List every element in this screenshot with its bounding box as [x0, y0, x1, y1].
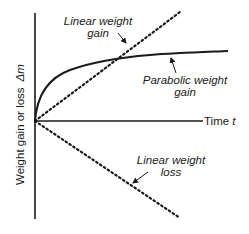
linear-gain-pointer-arrow	[118, 33, 126, 43]
oxidation-kinetics-diagram: Weight gain or lossΔm Timet Linear weigh…	[0, 0, 249, 234]
svg-text:gain: gain	[174, 86, 196, 98]
x-axis-label: Timet	[204, 115, 236, 127]
linear-loss-line	[35, 121, 180, 218]
svg-text:loss: loss	[161, 166, 182, 178]
svg-text:gain: gain	[87, 27, 109, 39]
linear-loss-pointer-arrow	[133, 172, 148, 183]
parabolic-gain-curve	[35, 51, 228, 121]
linear-gain-label: Linear weight gain	[64, 15, 133, 43]
svg-text:Parabolic weight: Parabolic weight	[143, 74, 228, 86]
svg-text:Linear weight: Linear weight	[64, 15, 133, 27]
svg-text:Linear weight: Linear weight	[137, 154, 206, 166]
linear-loss-label: Linear weight loss	[133, 154, 206, 183]
y-axis-label: Weight gain or lossΔm	[14, 64, 26, 185]
parabolic-gain-label: Parabolic weight gain	[143, 58, 228, 98]
parabolic-gain-pointer-arrow	[171, 58, 176, 73]
